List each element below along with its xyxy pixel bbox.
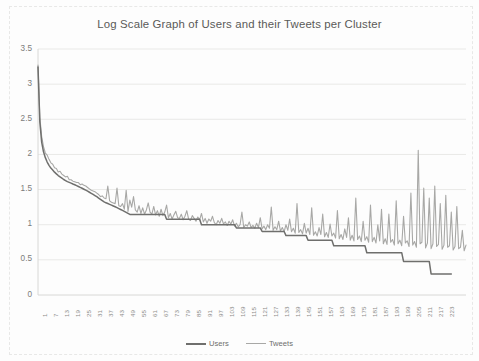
x-tick-label: 79: [184, 310, 191, 317]
legend-swatch-users: [186, 343, 206, 345]
x-tick-label: 61: [151, 310, 158, 317]
y-tick-label: 0: [10, 290, 32, 299]
chart-legend: Users Tweets: [0, 339, 479, 348]
x-tick-label: 205: [415, 307, 422, 317]
x-tick-label: 223: [448, 307, 455, 317]
x-tick-label: 97: [217, 310, 224, 317]
x-tick-label: 121: [261, 307, 268, 317]
x-tick-label: 193: [393, 307, 400, 317]
data-series: [38, 65, 466, 274]
x-tick-label: 103: [228, 307, 235, 317]
y-tick-label: 3.5: [10, 44, 32, 53]
x-tick-label: 151: [316, 307, 323, 317]
x-tick-label: 199: [404, 307, 411, 317]
x-tick-label: 55: [140, 310, 147, 317]
x-tick-label: 139: [294, 307, 301, 317]
x-tick-label: 73: [173, 310, 180, 317]
x-tick-label: 133: [283, 307, 290, 317]
x-tick-label: 169: [349, 307, 356, 317]
x-tick-label: 13: [63, 310, 70, 317]
x-tick-label: 163: [338, 307, 345, 317]
x-tick-label: 37: [107, 310, 114, 317]
x-tick-label: 91: [206, 310, 213, 317]
y-tick-label: 2.5: [10, 114, 32, 123]
y-tick-label: 3: [10, 79, 32, 88]
x-tick-label: 181: [371, 307, 378, 317]
y-tick-label: 0.5: [10, 254, 32, 263]
x-tick-label: 49: [129, 310, 136, 317]
series-line-tweets: [38, 65, 466, 251]
y-tick-label: 2: [10, 149, 32, 158]
x-tick-label: 211: [426, 307, 433, 317]
x-tick-label: 127: [272, 307, 279, 317]
x-tick-label: 115: [250, 307, 257, 317]
y-tick-label: 1: [10, 219, 32, 228]
legend-label-users: Users: [209, 339, 229, 348]
y-tick-label: 1.5: [10, 184, 32, 193]
legend-swatch-tweets: [246, 343, 266, 344]
x-tick-label: 19: [74, 310, 81, 317]
legend-entry-users: Users: [186, 339, 229, 348]
x-tick-label: 1: [41, 314, 48, 317]
x-tick-label: 187: [382, 307, 389, 317]
x-tick-label: 43: [118, 310, 125, 317]
axis-lines: [38, 49, 466, 295]
x-tick-label: 31: [96, 310, 103, 317]
legend-label-tweets: Tweets: [269, 339, 293, 348]
x-tick-label: 157: [327, 307, 334, 317]
chart-figure: Log Scale Graph of Users and their Tweet…: [0, 0, 479, 361]
x-tick-label: 85: [195, 310, 202, 317]
legend-entry-tweets: Tweets: [246, 339, 293, 348]
x-tick-label: 145: [305, 307, 312, 317]
x-tick-label: 217: [437, 307, 444, 317]
series-line-users: [38, 67, 451, 274]
x-tick-label: 67: [162, 310, 169, 317]
x-tick-label: 109: [239, 307, 246, 317]
x-tick-label: 25: [85, 310, 92, 317]
x-tick-label: 175: [360, 307, 367, 317]
x-tick-label: 7: [52, 314, 59, 317]
